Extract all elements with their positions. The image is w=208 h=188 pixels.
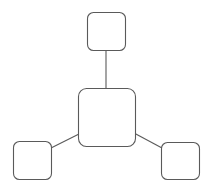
nodes-group <box>14 13 200 180</box>
hub-spoke-diagram <box>0 0 208 188</box>
node-box-center <box>79 89 136 147</box>
node-center <box>79 89 136 147</box>
node-top <box>88 13 126 51</box>
node-bottom-right <box>162 143 200 180</box>
node-box-bottom-right <box>162 143 200 180</box>
connector-center-to-bottom-right <box>134 133 162 148</box>
node-box-bottom-left <box>14 142 52 180</box>
connector-center-to-bottom-left <box>51 134 79 148</box>
node-box-top <box>88 13 126 51</box>
node-bottom-left <box>14 142 52 180</box>
